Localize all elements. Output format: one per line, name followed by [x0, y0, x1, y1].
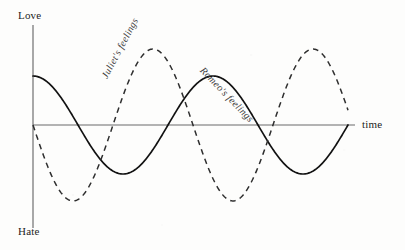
y-axis-top-label: Love	[18, 9, 41, 21]
y-axis-bottom-label: Hate	[18, 225, 40, 237]
x-axis-label: time	[362, 118, 382, 130]
chart-plot-area	[0, 0, 405, 250]
love-hate-time-chart: Love Hate time Juliet's feelings Romeo's…	[0, 0, 405, 250]
